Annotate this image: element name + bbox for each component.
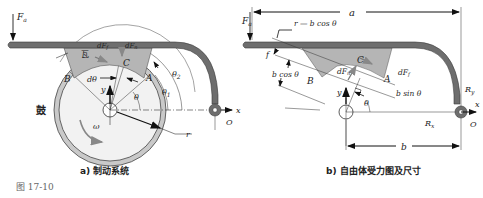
- label-dtheta: dθ: [87, 75, 97, 84]
- label-theta: θ: [134, 93, 139, 102]
- label-pivot-o: O: [226, 118, 233, 127]
- label-f: f: [265, 50, 271, 59]
- svg-text:Ry: Ry: [464, 85, 475, 96]
- label-y-axis: y: [100, 85, 106, 94]
- label-point-b-fbd: B: [306, 76, 314, 86]
- label-dim-a: a: [349, 7, 355, 18]
- label-point-a: A: [145, 73, 153, 83]
- svg-text:dFn: dFn: [125, 42, 138, 50]
- panel-b-free-body-diagram: Fa a r — b cos θ f b cos θ B C dFn dFf A…: [241, 7, 480, 176]
- brake-diagram-figure: Fa 瓦 dFf dFn C B A dθ y θ θ1 θ2 鼓 ω r x …: [0, 0, 483, 198]
- label-x-axis: x: [236, 106, 241, 115]
- panel-a-brake-system: Fa 瓦 dFf dFn C B A dθ y θ θ1 θ2 鼓 ω r x …: [8, 12, 241, 176]
- label-point-c-fbd: C: [357, 55, 364, 65]
- label-dim-b: b: [401, 142, 407, 152]
- label-pivot-o-fbd: O: [470, 120, 477, 129]
- label-theta-fbd: θ: [364, 99, 369, 108]
- svg-text:θ2: θ2: [172, 70, 181, 80]
- svg-text:Fa: Fa: [16, 12, 27, 23]
- label-Rx: R: [424, 119, 431, 128]
- label-drum: 鼓: [36, 104, 47, 116]
- label-r-minus-bcos: r — b cos θ: [294, 19, 337, 28]
- caption-panel-a: a) 制动系统: [80, 165, 129, 176]
- label-Ry: R: [464, 85, 471, 94]
- label-radius: r: [186, 130, 191, 139]
- label-omega: ω: [93, 122, 100, 131]
- label-point-b: B: [63, 74, 71, 84]
- label-shoe: 瓦: [81, 50, 89, 59]
- label-x-axis-fbd: x: [475, 100, 480, 109]
- svg-text:Fa: Fa: [241, 16, 252, 27]
- svg-text:dFf: dFf: [97, 42, 109, 51]
- figure-number: 图 17-10: [16, 182, 54, 192]
- label-point-c: C: [123, 58, 130, 68]
- svg-text:θ1: θ1: [162, 88, 171, 98]
- svg-text:dFn: dFn: [337, 67, 350, 76]
- svg-text:Rx: Rx: [424, 119, 435, 129]
- caption-panel-b: b) 自由体受力图及尺寸: [326, 165, 421, 176]
- label-b-cos: b cos θ: [272, 70, 299, 79]
- label-y-axis-fbd: y: [336, 88, 342, 97]
- label-b-sin: b sin θ: [396, 89, 422, 98]
- label-point-a-fbd: A: [383, 74, 391, 84]
- svg-text:dFf: dFf: [398, 68, 411, 78]
